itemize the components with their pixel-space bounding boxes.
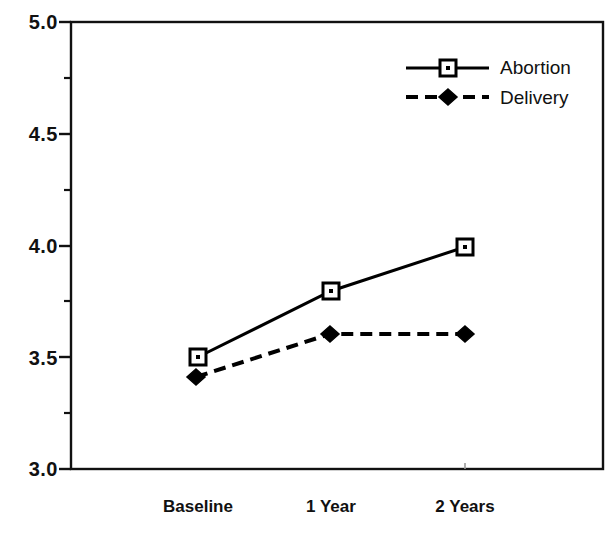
line-chart-figure: 5.0 4.5 4.0 3.5 3.0 Baseline 1 Year 2 Ye…: [0, 0, 615, 538]
y-axis-major-ticks: [59, 22, 71, 469]
plot-frame: [71, 22, 603, 469]
legend-sample-abortion: [406, 60, 489, 76]
plot-canvas: [0, 0, 615, 538]
legend-sample-delivery: [406, 89, 489, 105]
series-markers-delivery: [187, 326, 474, 385]
